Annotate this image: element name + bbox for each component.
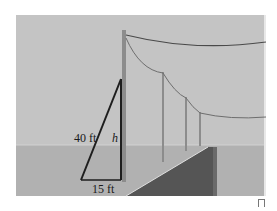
pole-3 xyxy=(185,97,187,151)
pole-2 xyxy=(162,72,164,162)
main-pole xyxy=(122,30,126,182)
sky xyxy=(16,15,266,145)
base-label: 15 ft xyxy=(92,183,114,195)
ramp-shadow xyxy=(213,147,217,196)
height-label: h xyxy=(112,132,118,144)
utility-pole-diagram xyxy=(0,0,277,211)
corner-mark-icon xyxy=(258,199,265,207)
hypotenuse-label: 40 ft xyxy=(74,132,96,144)
pole-4 xyxy=(199,112,201,146)
